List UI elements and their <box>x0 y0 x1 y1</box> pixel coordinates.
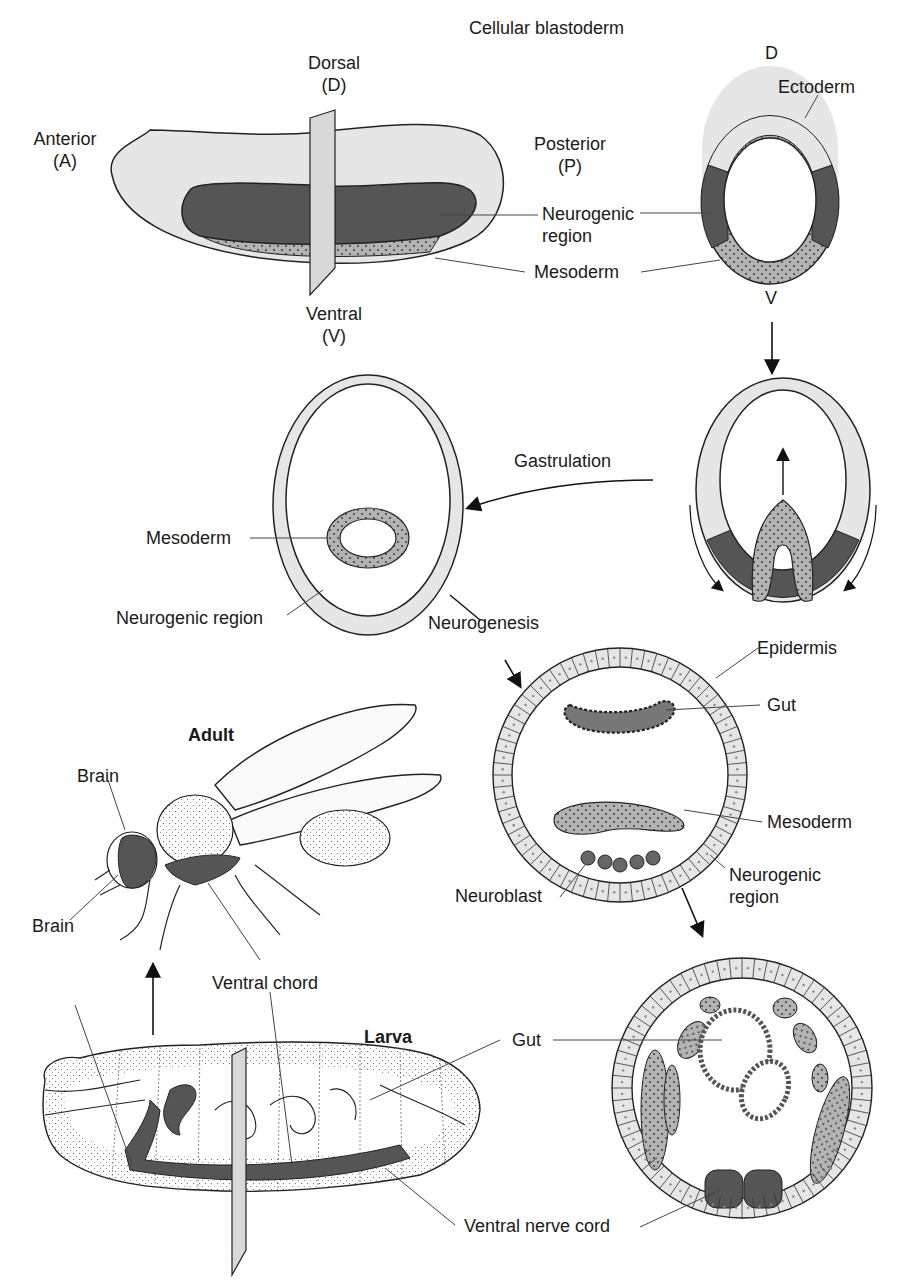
section-plane <box>232 1048 246 1275</box>
cross-dorsal-label: D <box>765 42 778 64</box>
figure-title: Cellular blastoderm <box>469 17 624 39</box>
larva <box>43 992 500 1275</box>
neurogenesis-label: Neurogenesis <box>428 612 539 634</box>
mesoderm-label-blastoderm: Mesoderm <box>534 261 619 283</box>
dorsal-label: Dorsal (D) <box>294 52 374 96</box>
brain-label-adult: Brain <box>77 765 119 787</box>
gut-label-neurogenesis: Gut <box>767 694 796 716</box>
brain-label-larva: Brain <box>32 915 74 937</box>
gastrulation-label: Gastrulation <box>514 450 611 472</box>
neurogenic-region-label: Neurogenic region <box>542 203 634 247</box>
gastrulating-embryo <box>468 378 876 602</box>
anterior-label: Anterior (A) <box>25 128 105 172</box>
section-plane <box>310 110 335 295</box>
blastoderm-cross-section <box>640 66 839 372</box>
later-cross-section <box>553 958 872 1227</box>
ventral-label: Ventral (V) <box>294 303 374 347</box>
mesoderm-label-neurogenesis: Mesoderm <box>767 811 852 833</box>
adult-title: Adult <box>188 724 234 746</box>
mesoderm-label-gastrulation: Mesoderm <box>146 527 231 549</box>
gut-label-larva: Gut <box>512 1029 541 1051</box>
ventral-chord-label: Ventral chord <box>212 972 318 994</box>
blastoderm-side-view <box>111 110 538 295</box>
neurogenic-region-label-neurogenesis: Neurogenic region <box>729 864 821 908</box>
posterior-label: Posterior (P) <box>520 133 620 177</box>
cross-ventral-label: V <box>765 287 777 309</box>
larva-title: Larva <box>364 1026 412 1048</box>
ectoderm-label: Ectoderm <box>778 76 855 98</box>
neuroblast-label: Neuroblast <box>455 885 542 907</box>
figure-canvas: Cellular blastoderm Dorsal (D) Anterior … <box>0 0 906 1287</box>
neurogenic-region-label-gastrulation: Neurogenic region <box>116 607 263 629</box>
post-gastrulation-embryo <box>250 375 520 686</box>
epidermis-label: Epidermis <box>757 637 837 659</box>
ventral-nerve-cord-label: Ventral nerve cord <box>464 1215 610 1237</box>
